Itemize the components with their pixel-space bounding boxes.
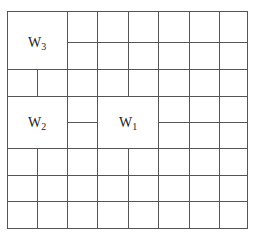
block-label-w2: W2 (28, 115, 46, 132)
block-label-w1: W1 (119, 115, 137, 132)
block-label-w3: W3 (28, 35, 46, 52)
grid-diagram: W3 W2 W1 (0, 0, 254, 234)
